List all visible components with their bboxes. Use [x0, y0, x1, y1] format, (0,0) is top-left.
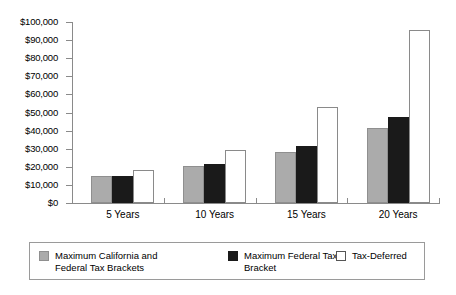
- y-tick-label: $50,000: [25, 108, 58, 118]
- y-tick-mark: [66, 76, 72, 77]
- bar[interactable]: [409, 30, 430, 203]
- x-tick-mark: [164, 198, 165, 204]
- legend-label: Maximum California and Federal Tax Brack…: [55, 250, 173, 274]
- y-tick-mark: [66, 131, 72, 132]
- y-tick-label: $40,000: [25, 126, 58, 136]
- bar[interactable]: [91, 176, 112, 203]
- bar[interactable]: [225, 150, 246, 203]
- y-tick-label: $60,000: [25, 89, 58, 99]
- legend-label: Tax-Deferred: [352, 250, 407, 262]
- chart-legend: Maximum California and Federal Tax Brack…: [29, 242, 425, 280]
- bar-group: [91, 21, 154, 203]
- bar[interactable]: [183, 166, 204, 203]
- plot-area: $0$10,000$20,000$30,000$40,000$50,000$60…: [0, 0, 456, 232]
- y-axis: $0$10,000$20,000$30,000$40,000$50,000$60…: [0, 0, 62, 232]
- bar[interactable]: [204, 164, 225, 203]
- bar[interactable]: [367, 128, 388, 203]
- bar-chart-figure: $0$10,000$20,000$30,000$40,000$50,000$60…: [0, 0, 456, 295]
- x-tick-label: 15 Years: [287, 209, 326, 221]
- bar[interactable]: [296, 146, 317, 203]
- y-tick-label: $100,000: [20, 17, 58, 27]
- bar-group: [183, 21, 246, 203]
- y-tick-mark: [66, 40, 72, 41]
- legend-swatch-icon: [39, 251, 49, 261]
- bar[interactable]: [275, 152, 296, 203]
- y-tick-mark: [66, 113, 72, 114]
- y-tick-label: $20,000: [25, 162, 58, 172]
- y-tick-label: $90,000: [25, 35, 58, 45]
- y-tick-label: $30,000: [25, 144, 58, 154]
- x-tick-label: 20 Years: [379, 209, 418, 221]
- y-tick-mark: [66, 58, 72, 59]
- y-tick-label: $10,000: [25, 180, 58, 190]
- legend-item[interactable]: Maximum California and Federal Tax Brack…: [39, 250, 173, 274]
- y-tick-mark: [66, 149, 72, 150]
- bar[interactable]: [317, 107, 338, 203]
- y-tick-mark: [66, 94, 72, 95]
- x-tick-mark: [347, 198, 348, 204]
- x-tick-label: 10 Years: [195, 209, 234, 221]
- bar[interactable]: [388, 117, 409, 203]
- y-tick-mark: [66, 167, 72, 168]
- bar-group: [275, 21, 338, 203]
- legend-swatch-icon: [228, 251, 238, 261]
- x-tick-mark: [439, 198, 440, 204]
- x-tick-mark: [256, 198, 257, 204]
- bars-layer: [73, 0, 440, 232]
- y-tick-mark: [66, 185, 72, 186]
- y-tick-mark: [66, 22, 72, 23]
- x-tick-mark: [72, 198, 73, 204]
- y-tick-label: $80,000: [25, 53, 58, 63]
- y-tick-label: $70,000: [25, 71, 58, 81]
- bar[interactable]: [133, 170, 154, 203]
- legend-item[interactable]: Tax-Deferred: [336, 250, 407, 262]
- bar-group: [367, 21, 430, 203]
- bar[interactable]: [112, 176, 133, 203]
- y-tick-label: $0: [48, 198, 58, 208]
- x-tick-label: 5 Years: [106, 209, 139, 221]
- legend-swatch-icon: [336, 251, 346, 261]
